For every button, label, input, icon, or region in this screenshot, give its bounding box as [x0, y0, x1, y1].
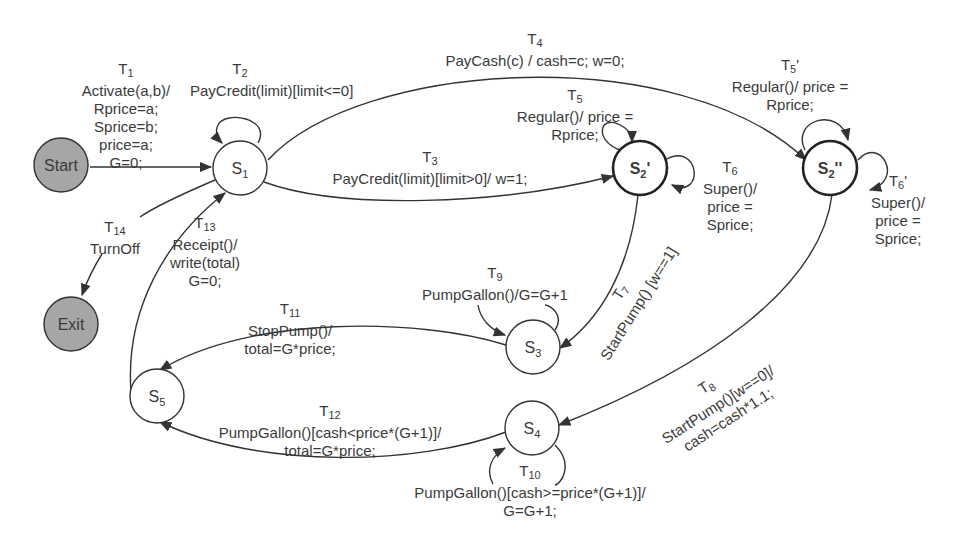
state-exit[interactable]: Exit [44, 297, 98, 351]
transition-t14-label: T14 TurnOff [80, 218, 150, 258]
state-s5-label: S [149, 388, 160, 405]
transition-t2-edge [217, 117, 261, 143]
state-s2-double-prime[interactable]: S2'' [803, 141, 857, 195]
transition-t11-label: T11 StopPump()/ total=G*price; [230, 300, 350, 358]
transition-t13-label: T13 Receipt()/ write(total) G=0; [155, 214, 255, 290]
transition-t3-label: T3 PayCredit(limit)[limit>0]/ w=1; [300, 148, 560, 188]
transition-t2-label: T2 PayCredit(limit)[limit<=0] [190, 60, 290, 100]
state-s2-prime[interactable]: S2' [613, 141, 667, 195]
state-s3[interactable]: S3 [506, 320, 560, 374]
transition-id: T1 [76, 60, 176, 82]
state-s2pp-label: S [818, 160, 829, 177]
transition-t6-prime-label: T6' Super()/ price = Sprice; [858, 172, 938, 248]
state-s1-label: S [232, 160, 243, 177]
state-start-label: Start [44, 157, 78, 174]
state-s2p-label: S [630, 160, 641, 177]
transition-t12-label: T12 PumpGallon()[cash<price*(G+1)]/ tota… [185, 402, 475, 460]
state-exit-label: Exit [58, 316, 85, 333]
transition-t5-prime-label: T5' Regular()/ price = Rprice; [720, 56, 860, 114]
transition-t6-label: T6 Super()/ price = Sprice; [690, 158, 770, 234]
transition-t4-label: T4 PayCash(c) / cash=c; w=0; [415, 30, 655, 70]
state-s4[interactable]: S4 [505, 401, 559, 455]
state-s1[interactable]: S1 [213, 141, 267, 195]
transition-t1-label: T1 Activate(a,b)/ Rprice=a; Sprice=b; pr… [76, 60, 176, 172]
state-s5[interactable]: S5 [130, 369, 184, 423]
transition-t5-label: T5 Regular()/ price = Rprice; [505, 86, 645, 144]
state-s3-label: S [525, 339, 536, 356]
transition-t9-label: T9 PumpGallon()/G=G+1 [395, 264, 595, 304]
transition-t10-label: T10 PumpGallon()[cash>=price*(G+1)]/ G=G… [375, 462, 685, 520]
state-s4-label: S [524, 420, 535, 437]
